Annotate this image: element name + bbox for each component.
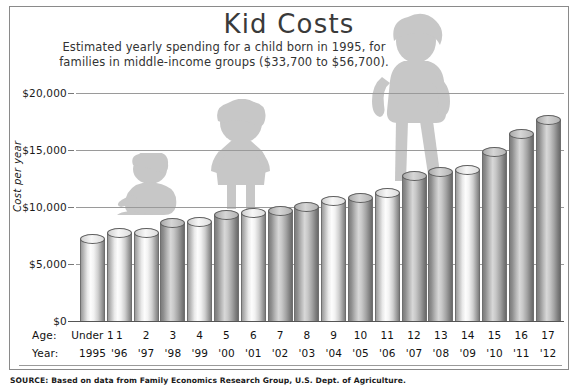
bar-body xyxy=(428,172,453,321)
bar-age-8 xyxy=(294,202,319,321)
y-tick-label-15000: $15,000 xyxy=(22,144,67,156)
bar-cap xyxy=(241,208,266,218)
bar-body xyxy=(321,201,346,321)
bar-age-14 xyxy=(455,165,480,321)
bar-body xyxy=(107,233,132,321)
x-axis-rule xyxy=(19,365,562,366)
chart-subtitle-line-1: Estimated yearly spending for a child bo… xyxy=(24,40,424,55)
bar-age-12 xyxy=(402,171,427,321)
bar-age-15 xyxy=(482,147,507,321)
bar-cap xyxy=(321,196,346,206)
bar-body xyxy=(509,134,534,321)
bar-body xyxy=(536,120,561,321)
bar-age-17 xyxy=(536,115,561,321)
bar-body xyxy=(214,215,239,321)
bar-cap xyxy=(482,147,507,157)
chart-frame: Kid Costs Estimated yearly spending for … xyxy=(9,6,569,370)
bar-age-7 xyxy=(268,206,293,321)
bar-cap xyxy=(455,165,480,175)
source-note: SOURCE: Based on data from Family Econom… xyxy=(10,376,406,385)
bar-body xyxy=(348,198,373,321)
bar-age-2 xyxy=(134,228,159,321)
y-tick-mark-15000 xyxy=(68,150,74,151)
chart-subtitle-line-2: families in middle-income groups ($33,70… xyxy=(24,55,424,70)
bar-body xyxy=(160,223,185,321)
y-tick-mark-20000 xyxy=(68,93,74,94)
bar-age-16 xyxy=(509,129,534,321)
bar-body xyxy=(80,239,105,321)
bar-cap xyxy=(375,188,400,198)
bar-age-13 xyxy=(428,167,453,321)
bar-age-3 xyxy=(160,218,185,321)
year-row-label: Year: xyxy=(32,347,59,359)
bar-age-6 xyxy=(241,208,266,321)
chart-title: Kid Costs xyxy=(10,9,568,39)
bar-body xyxy=(375,193,400,321)
x-year-label-17: '12 xyxy=(522,347,569,359)
y-tick-label-5000: $5,000 xyxy=(29,258,67,270)
bar-age-1 xyxy=(107,228,132,321)
bar-body xyxy=(134,233,159,321)
y-tick-mark-5000 xyxy=(68,264,74,265)
bar-age-5 xyxy=(214,210,239,321)
bar-age-11 xyxy=(375,188,400,321)
bar-body xyxy=(241,213,266,321)
bar-body xyxy=(294,207,319,321)
bar-body xyxy=(268,211,293,321)
x-axis-baseline xyxy=(68,321,564,322)
age-row-label: Age: xyxy=(32,329,57,341)
bar-cap xyxy=(134,228,159,238)
bar-age-4 xyxy=(187,217,212,321)
bar-series xyxy=(76,93,564,321)
bar-body xyxy=(402,176,427,321)
y-tick-label-20000: $20,000 xyxy=(22,87,67,99)
bar-body xyxy=(187,222,212,321)
bar-age-10 xyxy=(348,193,373,321)
chart-subtitle: Estimated yearly spending for a child bo… xyxy=(24,40,424,70)
bar-cap xyxy=(268,206,293,216)
bar-body xyxy=(455,170,480,321)
x-axis-labels: Age: Year: Under 119951'962'973'984'995'… xyxy=(10,325,568,369)
y-tick-label-10000: $10,000 xyxy=(22,201,67,213)
bar-cap xyxy=(107,228,132,238)
bar-cap xyxy=(402,171,427,181)
plot-area: $0$5,000$10,000$15,000$20,000 xyxy=(76,93,564,321)
bar-body xyxy=(482,152,507,321)
x-age-label-17: 17 xyxy=(522,329,569,341)
bar-cap xyxy=(536,115,561,125)
bar-age-under-1 xyxy=(80,234,105,321)
y-tick-mark-10000 xyxy=(68,207,74,208)
bar-age-9 xyxy=(321,196,346,321)
